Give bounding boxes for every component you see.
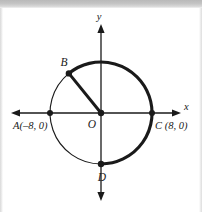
y-axis-label: y: [96, 11, 102, 22]
point-marker-b: [66, 70, 72, 76]
coordinate-plane-svg: y x A(–8, 0) B C (8, 0) D O: [0, 0, 202, 212]
x-axis-left-arrowhead: [11, 109, 20, 116]
point-marker-a: [47, 110, 53, 116]
point-label-a: A(–8, 0): [12, 120, 48, 132]
circle-geometry-figure: y x A(–8, 0) B C (8, 0) D O: [0, 0, 202, 212]
origin-label: O: [88, 118, 97, 130]
point-marker-origin: [98, 110, 104, 116]
axes-group: [11, 24, 181, 201]
point-marker-c: [149, 110, 155, 116]
point-label-b: B: [60, 56, 67, 68]
point-label-c: C (8, 0): [155, 120, 188, 132]
x-axis-label: x: [183, 101, 189, 112]
point-label-d: D: [97, 171, 107, 183]
radius-segment-OB: [69, 73, 101, 113]
y-axis-top-arrowhead: [97, 24, 104, 33]
y-axis-bottom-arrowhead: [97, 192, 104, 201]
x-axis-right-arrowhead: [172, 109, 181, 116]
point-marker-d: [98, 161, 104, 167]
